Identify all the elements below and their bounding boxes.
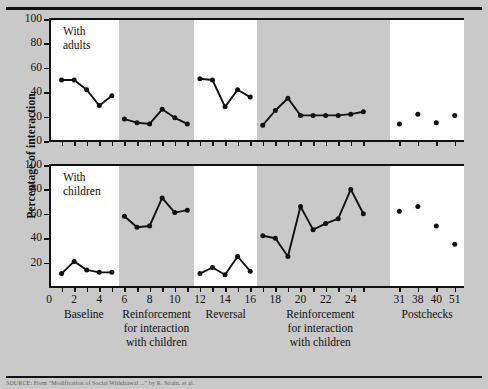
data-point <box>172 115 177 120</box>
figure-bottom-rule <box>6 376 482 378</box>
y-tick-label: 20 <box>16 111 42 123</box>
data-point <box>72 259 77 264</box>
x-tick-label: 20 <box>291 294 309 306</box>
data-point <box>298 113 303 118</box>
data-point <box>452 242 457 247</box>
data-point <box>285 96 290 101</box>
data-point <box>361 211 366 216</box>
series-line <box>124 198 187 227</box>
data-point <box>397 121 402 126</box>
x-tick-label: 38 <box>409 294 427 306</box>
data-point <box>122 117 127 122</box>
phase-caption-reinforcement-2: Reinforcement for interaction with child… <box>257 308 383 349</box>
series-line <box>263 189 364 256</box>
x-tick-label: 22 <box>317 294 335 306</box>
data-point <box>273 108 278 113</box>
x-tick-label: 24 <box>342 294 360 306</box>
y-tick-label: 40 <box>16 232 42 244</box>
data-point <box>336 216 341 221</box>
x-tick-label: 18 <box>266 294 284 306</box>
data-point <box>223 272 228 277</box>
data-point <box>298 204 303 209</box>
data-point <box>273 236 278 241</box>
data-point <box>109 93 114 98</box>
data-point <box>397 209 402 214</box>
series-line <box>200 257 250 275</box>
x-tick-label: 40 <box>427 294 445 306</box>
y-tick-label: 60 <box>16 62 42 74</box>
phase-caption-reinforcement-1: Reinforcement for interaction with child… <box>119 308 194 349</box>
x-tick-label: 14 <box>216 294 234 306</box>
series-children <box>49 164 464 288</box>
y-tick-label: 100 <box>16 159 42 171</box>
data-point <box>109 270 114 275</box>
data-point <box>160 195 165 200</box>
data-point <box>185 121 190 126</box>
y-tick-label: 20 <box>16 257 42 269</box>
x-tick-label: 2 <box>65 294 83 306</box>
data-point <box>248 269 253 274</box>
data-point <box>285 254 290 259</box>
series-line <box>62 80 112 106</box>
figure-top-rule <box>6 7 482 10</box>
panel-with-children: 20406080100With children 024681012141618… <box>49 164 464 288</box>
data-point <box>122 214 127 219</box>
y-tick-label: 80 <box>16 183 42 195</box>
plot-area-children: 20406080100With children <box>49 164 464 288</box>
data-point <box>235 87 240 92</box>
phase-caption-postchecks: Postchecks <box>390 308 464 322</box>
x-tick-label: 31 <box>390 294 408 306</box>
plot-area-adults: 020406080100With adults <box>49 18 464 142</box>
y-tick-label: 40 <box>16 86 42 98</box>
data-point <box>311 113 316 118</box>
data-point <box>197 271 202 276</box>
data-point <box>97 103 102 108</box>
y-tick-label: 100 <box>16 13 42 25</box>
data-point <box>59 78 64 83</box>
x-tick-label: 6 <box>115 294 133 306</box>
data-point <box>415 112 420 117</box>
data-point <box>97 270 102 275</box>
x-tick-label: 4 <box>90 294 108 306</box>
data-point <box>260 123 265 128</box>
data-point <box>147 224 152 229</box>
x-tick-label: 12 <box>191 294 209 306</box>
source-citation: SOURCE: From "Modification of Social Wit… <box>6 380 482 388</box>
y-tick-label: 80 <box>16 37 42 49</box>
y-axis-title: Percentage of interaction <box>25 51 37 261</box>
data-point <box>135 120 140 125</box>
data-point <box>434 120 439 125</box>
data-point <box>323 113 328 118</box>
data-point <box>210 265 215 270</box>
data-point <box>172 210 177 215</box>
data-point <box>135 225 140 230</box>
data-point <box>361 109 366 114</box>
phase-caption-baseline: Baseline <box>49 308 119 322</box>
data-point <box>260 233 265 238</box>
panel-with-adults: 020406080100With adults <box>49 18 464 142</box>
data-point <box>72 78 77 83</box>
data-point <box>84 87 89 92</box>
data-point <box>235 254 240 259</box>
data-point <box>160 107 165 112</box>
series-line <box>263 98 364 125</box>
phase-caption-reversal: Reversal <box>194 308 257 322</box>
data-point <box>248 95 253 100</box>
x-tick-label: 51 <box>446 294 464 306</box>
data-point <box>210 78 215 83</box>
data-point <box>336 113 341 118</box>
data-point <box>323 221 328 226</box>
figure-container: Percentage of interaction 020406080100Wi… <box>0 0 488 389</box>
series-adults <box>49 18 464 142</box>
data-point <box>223 104 228 109</box>
y-tick-label: 60 <box>16 208 42 220</box>
series-line <box>200 79 250 107</box>
x-tick-label: 0 <box>40 294 58 306</box>
data-point <box>197 76 202 81</box>
x-tick-label: 10 <box>166 294 184 306</box>
data-point <box>348 112 353 117</box>
data-point <box>59 271 64 276</box>
data-point <box>348 187 353 192</box>
y-tick-label: 0 <box>16 135 42 147</box>
data-point <box>185 208 190 213</box>
